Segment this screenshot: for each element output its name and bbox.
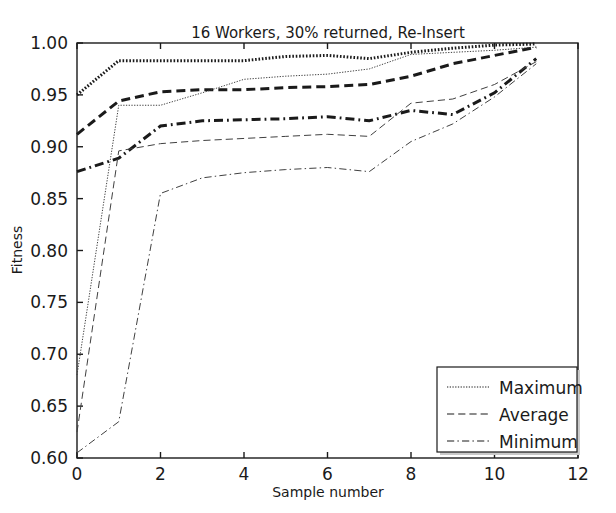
y-tick-label: 0.95 xyxy=(30,85,68,105)
chart-canvas: 16 Workers, 30% returned, Re-Insert 0.60… xyxy=(0,0,616,513)
legend-label-minimum[interactable]: Minimum xyxy=(499,432,578,452)
legend-label-average[interactable]: Average xyxy=(499,405,569,425)
y-tick-label: 0.75 xyxy=(30,292,68,312)
x-axis-title: Sample number xyxy=(272,484,384,500)
y-tick-label: 1.00 xyxy=(30,33,68,53)
y-tick-label: 0.85 xyxy=(30,189,68,209)
y-tick-label: 0.60 xyxy=(30,448,68,468)
x-tick-label: 12 xyxy=(567,464,589,484)
chart-legend[interactable]: MaximumAverageMinimum xyxy=(437,367,583,455)
x-tick-label: 0 xyxy=(72,464,83,484)
chart-title: 16 Workers, 30% returned, Re-Insert xyxy=(191,24,465,42)
x-tick-label: 10 xyxy=(484,464,506,484)
x-tick-label: 8 xyxy=(406,464,417,484)
y-tick-label: 0.80 xyxy=(30,241,68,261)
y-tick-label: 0.70 xyxy=(30,344,68,364)
y-tick-label: 0.90 xyxy=(30,137,68,157)
chart-figure: 16 Workers, 30% returned, Re-Insert 0.60… xyxy=(0,0,616,513)
y-axis-title: Fitness xyxy=(9,226,25,275)
legend-label-maximum[interactable]: Maximum xyxy=(499,378,583,398)
y-tick-label: 0.65 xyxy=(30,396,68,416)
x-tick-label: 2 xyxy=(155,464,166,484)
x-tick-label: 6 xyxy=(322,464,333,484)
x-tick-label: 4 xyxy=(239,464,250,484)
